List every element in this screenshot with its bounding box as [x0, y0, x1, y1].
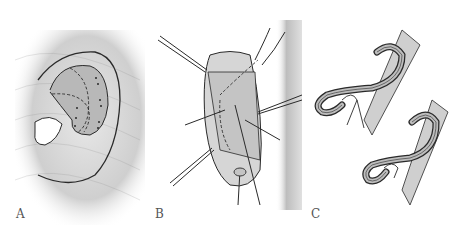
panel-a: A: [0, 0, 150, 233]
panel-b: B: [150, 0, 302, 233]
panel-b-label: B: [155, 207, 164, 221]
panel-c: C: [302, 0, 465, 233]
cartilage-cross-section-illustration-icon: [302, 0, 465, 233]
surgical-retraction-illustration-icon: [150, 0, 302, 233]
panel-c-label: C: [311, 207, 320, 221]
ear-illustration-icon: [0, 0, 150, 233]
panel-a-label: A: [16, 207, 25, 221]
